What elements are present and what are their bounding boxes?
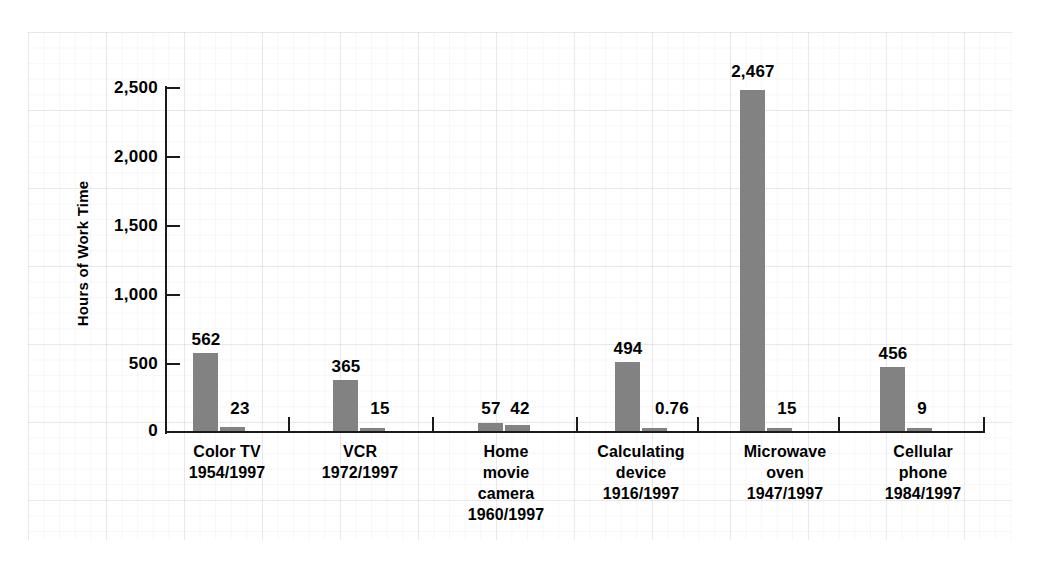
value-label-vcr-1997: 15 (350, 399, 410, 419)
category-separator-5 (838, 417, 840, 432)
bar-color-tv-1997[interactable] (220, 427, 245, 431)
y-tick-500 (167, 363, 180, 365)
y-tick-1000 (167, 294, 180, 296)
bar-calculating-device-1997[interactable] (642, 428, 667, 431)
y-tick-1500 (167, 225, 180, 227)
y-tick-label-1500: 1,500 (114, 216, 158, 236)
category-label-color-tv: Color TV 1954/1997 (162, 441, 292, 483)
y-tick-2000 (167, 156, 180, 158)
category-label-home-movie-camera: Home movie camera 1960/1997 (441, 441, 571, 525)
bar-cellular-phone-1997[interactable] (907, 428, 932, 431)
chart-page: Hours of Work Time 2,500 2,000 1,500 1,0… (0, 0, 1039, 575)
value-label-cellular-phone-intro: 456 (854, 344, 932, 364)
value-label-color-tv-1997: 23 (210, 399, 270, 419)
value-label-calculating-device-1997: 0.76 (632, 399, 712, 419)
bar-home-movie-camera-intro[interactable] (478, 423, 503, 431)
y-tick-label-2500: 2,500 (114, 78, 158, 98)
bar-calculating-device-intro[interactable] (615, 362, 640, 431)
bar-vcr-1997[interactable] (360, 428, 385, 431)
bar-microwave-oven-1997[interactable] (767, 428, 792, 431)
category-label-calculating-device: Calculating device 1916/1997 (576, 441, 706, 504)
value-label-cellular-phone-1997: 9 (902, 399, 942, 419)
bar-chart-plot: Hours of Work Time 2,500 2,000 1,500 1,0… (0, 0, 1039, 575)
y-tick-label-2000: 2,000 (114, 147, 158, 167)
y-tick-2500 (167, 87, 180, 89)
bar-microwave-oven-intro[interactable] (740, 90, 765, 431)
value-label-home-movie-camera-1997: 42 (490, 399, 550, 419)
category-label-vcr: VCR 1972/1997 (295, 441, 425, 483)
value-label-microwave-oven-1997: 15 (757, 399, 817, 419)
y-tick-label-500: 500 (129, 354, 158, 374)
y-axis-tick-labels: 2,500 2,000 1,500 1,000 500 0 (0, 0, 158, 575)
y-tick-label-0: 0 (148, 421, 158, 441)
value-label-vcr-intro: 365 (307, 357, 385, 377)
bar-home-movie-camera-1997[interactable] (505, 425, 530, 431)
x-axis-end-cap (983, 417, 985, 432)
category-label-microwave-oven: Microwave oven 1947/1997 (715, 441, 855, 504)
category-separator-2 (432, 417, 434, 432)
category-separator-1 (288, 417, 290, 432)
category-separator-3 (576, 417, 578, 432)
y-tick-label-1000: 1,000 (114, 285, 158, 305)
value-label-color-tv-intro: 562 (167, 330, 245, 350)
value-label-microwave-oven-intro: 2,467 (708, 62, 798, 82)
category-label-cellular-phone: Cellular phone 1984/1997 (853, 441, 993, 504)
bar-color-tv-intro[interactable] (193, 353, 218, 431)
value-label-calculating-device-intro: 494 (589, 339, 667, 359)
category-separator-4 (697, 417, 699, 432)
y-axis-line (165, 86, 167, 434)
